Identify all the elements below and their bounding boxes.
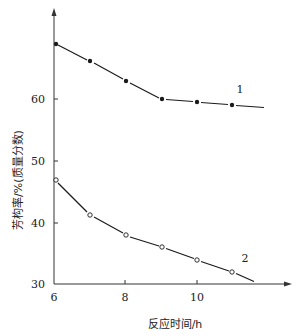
data-point	[230, 103, 234, 107]
data-point	[88, 59, 92, 63]
data-point	[230, 270, 234, 274]
x-axis-arrow-icon	[284, 282, 292, 287]
data-point	[124, 233, 128, 237]
x-axis-title: 反应时间/h	[148, 317, 203, 331]
x-tick-label: 6	[51, 291, 58, 304]
data-point	[124, 79, 128, 83]
data-point	[160, 97, 164, 101]
data-point	[195, 258, 199, 262]
y-tick-label: 30	[31, 278, 45, 291]
data-point	[54, 178, 58, 182]
data-point	[160, 245, 164, 249]
data-point	[54, 42, 58, 46]
data-point	[195, 100, 199, 104]
data-point	[88, 213, 92, 217]
series-2-label: 2	[242, 252, 249, 265]
y-axis-arrow-icon	[52, 8, 57, 16]
series-1-label: 1	[237, 83, 244, 96]
series-1-markers	[54, 42, 234, 107]
y-tick-label: 50	[31, 155, 45, 168]
axes	[52, 8, 293, 287]
line-chart: 60 50 40 30 6 8 10 反应时间/h 芳构率/%(质量分数) 1	[0, 0, 297, 336]
x-tick-label: 8	[122, 291, 129, 304]
x-tick-label: 10	[190, 291, 204, 304]
series-2	[58, 183, 254, 282]
series-2-markers	[54, 178, 234, 274]
y-tick-label: 40	[31, 217, 45, 230]
y-axis-title: 芳构率/%(质量分数)	[11, 130, 25, 230]
y-tick-label: 60	[31, 93, 45, 106]
